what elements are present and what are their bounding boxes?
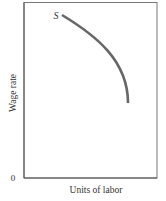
y-axis-label: Wage rate (8, 74, 18, 112)
origin-label: 0 (11, 173, 16, 183)
supply-curve (62, 15, 128, 103)
plot-frame (24, 3, 157, 179)
curve-label-s: S (54, 10, 59, 21)
chart: S 0 Units of labor Wage rate (0, 0, 166, 201)
x-axis-label: Units of labor (70, 185, 124, 195)
